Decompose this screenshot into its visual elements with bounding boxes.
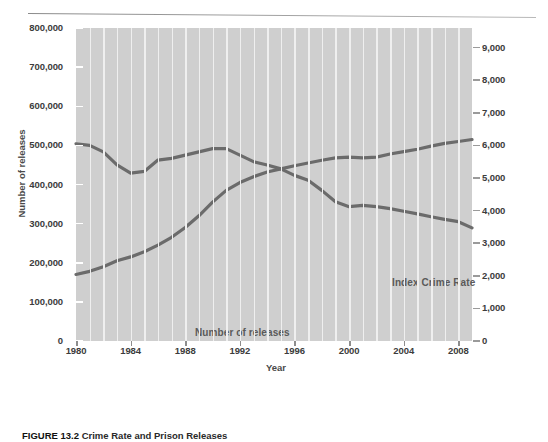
x-axis-tick-label: 1984 bbox=[108, 345, 154, 356]
y-axis-right-tick bbox=[473, 47, 480, 49]
figure-container: Number of releases Index Crime Rate 0100… bbox=[0, 0, 548, 442]
y-axis-right-tick bbox=[473, 275, 480, 277]
y-axis-right-tick bbox=[473, 242, 480, 244]
y-axis-right-tick-label: 4,000 bbox=[482, 205, 546, 216]
y-axis-left-tick-label: 300,000 bbox=[0, 218, 63, 229]
y-axis-left-tick-label: 400,000 bbox=[0, 179, 63, 190]
y-axis-left-tick bbox=[76, 27, 83, 29]
gridline-vertical bbox=[349, 28, 351, 341]
y-axis-left-tick-label: 700,000 bbox=[0, 61, 63, 72]
y-axis-left-tick bbox=[76, 223, 83, 225]
y-axis-right-tick-label: 8,000 bbox=[482, 74, 546, 85]
figure-caption: FIGURE 13.2 Crime Rate and Prison Releas… bbox=[22, 430, 522, 441]
y-axis-right-tick-label: 7,000 bbox=[482, 107, 546, 118]
y-axis-left-tick-label: 200,000 bbox=[0, 257, 63, 268]
gridline-vertical bbox=[404, 28, 406, 341]
y-axis-right-tick-label: 1,000 bbox=[482, 302, 546, 313]
gridline-vertical bbox=[158, 28, 160, 341]
y-axis-right-tick bbox=[473, 112, 480, 114]
x-axis-tick-label: 2008 bbox=[435, 345, 481, 356]
gridline-vertical bbox=[199, 28, 201, 341]
y-axis-right-tick-label: 3,000 bbox=[482, 237, 546, 248]
y-axis-right-tick-label: 0 bbox=[482, 335, 546, 346]
y-axis-left-tick bbox=[76, 66, 83, 68]
gridline-vertical bbox=[431, 28, 433, 341]
y-axis-left-tick-label: 600,000 bbox=[0, 100, 63, 111]
x-axis-tick-label: 1996 bbox=[271, 345, 317, 356]
x-axis-tick-label: 2004 bbox=[381, 345, 427, 356]
gridline-vertical bbox=[213, 28, 215, 341]
y-axis-right-tick-label: 2,000 bbox=[482, 270, 546, 281]
top-rule-divider bbox=[28, 13, 536, 18]
gridline-vertical bbox=[103, 28, 105, 341]
figure-caption-text: Crime Rate and Prison Releases bbox=[82, 430, 228, 441]
gridline-vertical bbox=[376, 28, 378, 341]
y-axis-left-tick-label: 100,000 bbox=[0, 296, 63, 307]
gridline-vertical bbox=[363, 28, 365, 341]
y-axis-right-tick bbox=[473, 340, 480, 342]
y-axis-left-tick bbox=[76, 106, 83, 108]
y-axis-right-tick bbox=[473, 79, 480, 81]
x-axis-tick-label: 1992 bbox=[217, 345, 263, 356]
chart-plot-area: Number of releases Index Crime Rate bbox=[76, 28, 472, 341]
x-axis-title: Year bbox=[236, 362, 316, 373]
gridline-vertical bbox=[281, 28, 283, 341]
y-axis-left-tick bbox=[76, 262, 83, 264]
gridline-vertical bbox=[240, 28, 242, 341]
figure-caption-number: FIGURE 13.2 bbox=[22, 430, 79, 441]
gridline-vertical bbox=[90, 28, 92, 341]
x-axis-tick-label: 1980 bbox=[53, 345, 99, 356]
gridline-vertical bbox=[294, 28, 296, 341]
gridline-vertical bbox=[172, 28, 174, 341]
gridline-vertical bbox=[417, 28, 419, 341]
gridline-vertical bbox=[185, 28, 187, 341]
y-axis-right-tick-label: 5,000 bbox=[482, 172, 546, 183]
gridline-vertical bbox=[322, 28, 324, 341]
gridline-vertical bbox=[267, 28, 269, 341]
gridline-vertical bbox=[117, 28, 119, 341]
y-axis-right-tick bbox=[473, 177, 480, 179]
x-axis-tick-label: 1988 bbox=[162, 345, 208, 356]
gridline-vertical bbox=[254, 28, 256, 341]
gridline-vertical bbox=[445, 28, 447, 341]
series-label-releases: Number of releases bbox=[195, 327, 290, 338]
y-axis-left-title: Number of releases bbox=[16, 99, 27, 249]
y-axis-right-tick-label: 9,000 bbox=[482, 42, 546, 53]
gridline-vertical bbox=[390, 28, 392, 341]
y-axis-right-tick-label: 6,000 bbox=[482, 139, 546, 150]
y-axis-left-tick-label: 500,000 bbox=[0, 139, 63, 150]
y-axis-left-tick bbox=[76, 184, 83, 186]
series-line-releases bbox=[76, 140, 472, 275]
y-axis-left-tick bbox=[76, 145, 83, 147]
series-line-crime-rate bbox=[76, 144, 472, 228]
gridline-vertical bbox=[226, 28, 228, 341]
gridline-vertical bbox=[458, 28, 460, 341]
y-axis-right-tick bbox=[473, 210, 480, 212]
gridline-vertical bbox=[308, 28, 310, 341]
y-axis-right-tick bbox=[473, 145, 480, 147]
y-axis-right-tick bbox=[473, 308, 480, 310]
chart-lines-svg bbox=[76, 28, 472, 341]
gridline-vertical bbox=[131, 28, 133, 341]
y-axis-left-tick-label: 800,000 bbox=[0, 22, 63, 33]
gridline-vertical bbox=[144, 28, 146, 341]
gridline-vertical bbox=[335, 28, 337, 341]
x-axis-tick-label: 2000 bbox=[326, 345, 372, 356]
y-axis-left-tick bbox=[76, 301, 83, 303]
